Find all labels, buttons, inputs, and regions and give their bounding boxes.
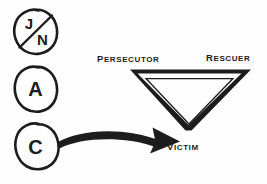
drama-triangle-diagram: J N A C PERSECUTOR RE	[0, 0, 267, 184]
label-rescuer: RESCUER	[206, 52, 250, 63]
circle-jn-letter-n: N	[37, 31, 48, 48]
circle-c-letter: C	[28, 136, 42, 158]
curved-arrow-icon	[57, 128, 180, 154]
drama-triangle-shape	[130, 70, 251, 131]
circle-a-icon[interactable]: A	[15, 67, 57, 112]
circle-a-letter: A	[28, 78, 42, 100]
diagram-canvas: J N A C PERSECUTOR RE	[0, 0, 267, 184]
circle-jn-letter-j: J	[25, 15, 33, 32]
circle-c-icon[interactable]: C	[15, 123, 58, 169]
arrow-shaft	[57, 131, 162, 148]
label-victim: VICTIM	[167, 141, 199, 152]
circle-jn-crossed-icon[interactable]: J N	[14, 10, 57, 54]
label-persecutor: PERSECUTOR	[97, 53, 159, 64]
